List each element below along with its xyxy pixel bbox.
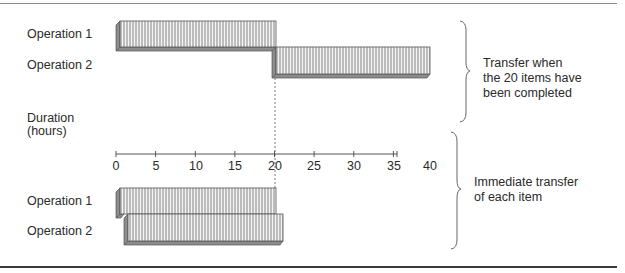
bar-bottom-operation-1 xyxy=(116,188,276,218)
note-batch-transfer: Transfer when the 20 items have been com… xyxy=(483,56,582,101)
bar-top-operation-1 xyxy=(116,21,276,51)
bottom-rule xyxy=(0,266,617,268)
label-hours: (hours) xyxy=(27,124,67,139)
bar-top-operation-2 xyxy=(272,47,430,78)
tick-20: 20 xyxy=(268,159,282,173)
tick-40: 40 xyxy=(423,159,437,173)
tick-5: 5 xyxy=(153,159,160,173)
tick-35: 35 xyxy=(387,159,401,173)
bar-bottom-operation-2 xyxy=(124,214,283,245)
tick-30: 30 xyxy=(347,159,361,173)
brace-immediate-transfer xyxy=(451,132,461,249)
tick-0: 0 xyxy=(113,159,120,173)
duration-axis: 0 5 10 15 20 25 30 35 40 xyxy=(113,151,437,173)
gantt-chart: 0 5 10 15 20 25 30 35 40 xyxy=(0,0,625,273)
tick-15: 15 xyxy=(228,159,242,173)
brace-batch-transfer xyxy=(460,21,470,122)
label-top-operation-1: Operation 1 xyxy=(27,27,92,42)
label-bottom-operation-2: Operation 2 xyxy=(27,224,92,239)
label-bottom-operation-1: Operation 1 xyxy=(27,194,92,209)
tick-10: 10 xyxy=(189,159,203,173)
label-top-operation-2: Operation 2 xyxy=(27,58,92,73)
tick-25: 25 xyxy=(307,159,321,173)
note-immediate-transfer: Immediate transfer of each item xyxy=(474,175,578,205)
